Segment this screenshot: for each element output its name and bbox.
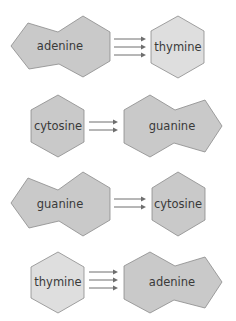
thymine-label: thymine — [34, 275, 81, 289]
pair-2: cytosine guanine — [31, 95, 222, 157]
triple-bond-arrows — [89, 270, 118, 291]
pair-4: thymine adenine — [31, 252, 222, 313]
thymine-label: thymine — [154, 40, 201, 54]
triple-bond-arrows — [114, 37, 146, 58]
pair-3: guanine cytosine — [11, 172, 205, 236]
adenine-label: adenine — [37, 39, 83, 53]
base-pairing-diagram: adenine thymine cytosine guanine guanine… — [0, 0, 236, 321]
pair-1: adenine thymine — [11, 16, 204, 78]
double-bond-arrows — [114, 197, 146, 210]
double-bond-arrows — [89, 120, 118, 133]
cytosine-label: cytosine — [34, 119, 82, 133]
guanine-label: guanine — [37, 197, 83, 211]
guanine-label: guanine — [149, 119, 195, 133]
cytosine-label: cytosine — [154, 197, 202, 211]
adenine-label: adenine — [149, 275, 195, 289]
